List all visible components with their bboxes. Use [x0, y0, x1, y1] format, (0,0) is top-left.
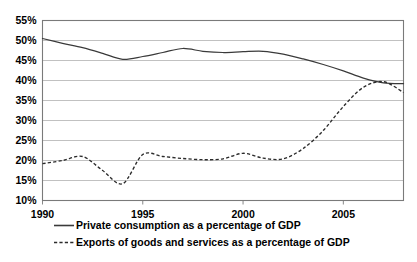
y-axis-tick-label: 55%: [15, 14, 37, 26]
y-axis-tick-label: 30%: [15, 114, 37, 126]
legend-item-label: Private consumption as a percentage of G…: [76, 219, 301, 231]
x-axis-tick-labels: 1990199520002005: [31, 208, 355, 220]
x-axis-tick-label: 1990: [31, 208, 55, 220]
y-axis-tick-label: 25%: [15, 134, 37, 146]
y-axis-tick-label: 35%: [15, 94, 37, 106]
chart-container: 10%15%20%25%30%35%40%45%50%55% 199019952…: [0, 0, 417, 262]
y-axis-tick-label: 15%: [15, 174, 37, 186]
y-axis-tick-label: 50%: [15, 34, 37, 46]
legend: Private consumption as a percentage of G…: [54, 219, 350, 248]
gridlines-group: [43, 21, 404, 201]
legend-item-label: Exports of goods and services as a perce…: [76, 236, 350, 248]
series-line-private-consumption: [43, 39, 404, 84]
x-axis-tick-label: 2000: [231, 208, 255, 220]
y-axis-tick-labels: 10%15%20%25%30%35%40%45%50%55%: [15, 14, 37, 206]
x-axis-tick-label: 2005: [332, 208, 356, 220]
y-axis-tick-label: 45%: [15, 54, 37, 66]
line-chart: 10%15%20%25%30%35%40%45%50%55% 199019952…: [0, 0, 417, 262]
y-axis-tick-label: 20%: [15, 154, 37, 166]
series-line-exports: [43, 82, 404, 185]
x-axis-ticks: [43, 201, 344, 205]
x-axis-tick-label: 1995: [131, 208, 155, 220]
y-axis-tick-label: 10%: [15, 194, 37, 206]
y-axis-tick-label: 40%: [15, 74, 37, 86]
plot-area-border: [43, 21, 404, 201]
